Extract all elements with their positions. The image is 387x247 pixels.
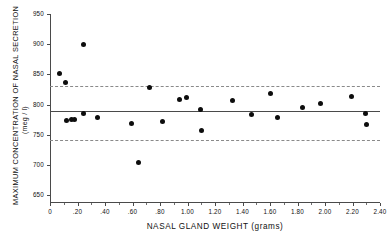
x-tick-minor	[119, 203, 120, 205]
x-tick-label: .60	[128, 208, 137, 215]
data-point	[268, 91, 273, 96]
data-point	[95, 115, 100, 120]
x-tick-label: 1.20	[208, 208, 221, 215]
y-axis-title: MAXIMUM CONCENTRATION OF NASAL SECRETION	[11, 6, 20, 205]
x-tick-label: .20	[73, 208, 82, 215]
x-tick-mark	[105, 203, 106, 206]
x-tick-label: 1.80	[291, 208, 304, 215]
x-tick-mark	[270, 203, 271, 206]
x-tick-mark	[380, 203, 381, 206]
y-tick-mark	[47, 74, 51, 75]
x-tick-mark	[325, 203, 326, 206]
data-point	[81, 111, 86, 116]
data-point	[147, 85, 152, 90]
data-point	[63, 80, 68, 85]
data-point	[177, 97, 182, 102]
x-tick-label: .80	[155, 208, 164, 215]
x-tick-mark	[160, 203, 161, 206]
data-point	[198, 107, 203, 112]
y-tick-label: 700	[33, 161, 44, 168]
y-axis-title-block: MAXIMUM CONCENTRATION OF NASAL SECRETION…	[0, 0, 34, 210]
x-tick-minor	[339, 203, 340, 205]
data-point	[160, 119, 165, 124]
x-tick-label: 1.00	[181, 208, 194, 215]
data-point	[136, 160, 141, 165]
data-point	[129, 121, 134, 126]
data-point	[184, 95, 189, 100]
y-tick-label: 800	[33, 101, 44, 108]
x-tick-mark	[188, 203, 189, 206]
reference-line-upper-limit	[50, 86, 380, 87]
data-point	[363, 111, 368, 116]
x-tick-label: 0	[48, 208, 52, 215]
x-tick-label: 1.60	[263, 208, 276, 215]
data-point	[275, 115, 280, 120]
y-tick-label: 950	[33, 10, 44, 17]
x-tick-minor	[174, 203, 175, 205]
x-tick-minor	[201, 203, 202, 205]
x-tick-label: 2.00	[318, 208, 331, 215]
x-tick-mark	[78, 203, 79, 206]
data-point	[230, 98, 235, 103]
y-tick-mark	[47, 165, 51, 166]
x-tick-minor	[284, 203, 285, 205]
data-point	[57, 71, 62, 76]
reference-line-mean	[50, 111, 380, 112]
x-tick-mark	[353, 203, 354, 206]
x-axis-title: NASAL GLAND WEIGHT (grams)	[50, 222, 380, 231]
data-point	[249, 112, 254, 117]
x-tick-minor	[256, 203, 257, 205]
plot-area: 650700750800850900950 0.20.40.60.801.001…	[50, 14, 380, 203]
y-tick-mark	[47, 44, 51, 45]
x-tick-minor	[146, 203, 147, 205]
x-tick-minor	[311, 203, 312, 205]
y-axis-line	[50, 14, 51, 203]
x-tick-mark	[243, 203, 244, 206]
x-tick-minor	[64, 203, 65, 205]
y-tick-mark	[47, 195, 51, 196]
y-tick-label: 650	[33, 191, 44, 198]
y-axis-units: (meg / l)	[21, 106, 29, 134]
x-tick-label: 1.40	[236, 208, 249, 215]
y-tick-mark	[47, 105, 51, 106]
y-tick-mark	[47, 135, 51, 136]
x-tick-mark	[215, 203, 216, 206]
x-tick-mark	[133, 203, 134, 206]
x-tick-label: .40	[100, 208, 109, 215]
x-tick-minor	[366, 203, 367, 205]
x-tick-label: 2.40	[373, 208, 386, 215]
x-tick-minor	[91, 203, 92, 205]
x-tick-mark	[298, 203, 299, 206]
x-tick-minor	[229, 203, 230, 205]
y-tick-mark	[47, 14, 51, 15]
data-point	[349, 94, 354, 99]
data-point	[72, 117, 77, 122]
x-tick-mark	[50, 203, 51, 206]
data-point	[300, 105, 305, 110]
y-tick-label: 750	[33, 131, 44, 138]
data-point	[199, 128, 204, 133]
reference-line-lower-limit	[50, 140, 380, 141]
data-point	[318, 101, 323, 106]
y-tick-label: 900	[33, 40, 44, 47]
x-tick-label: 2.20	[346, 208, 359, 215]
data-point	[81, 42, 86, 47]
y-tick-label: 850	[33, 70, 44, 77]
data-point	[364, 122, 369, 127]
